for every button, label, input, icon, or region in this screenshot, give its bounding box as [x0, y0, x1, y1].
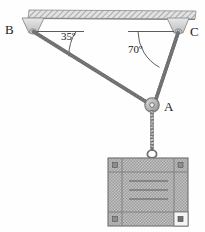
physics-diagram-canvas: B C A 35º 70º [0, 0, 205, 232]
label-angle-right: 70º [128, 43, 143, 55]
eye-hook-icon [147, 148, 156, 158]
diagram-svg: B C A 35º 70º [0, 0, 205, 232]
hanging-block [108, 158, 188, 226]
label-angle-left: 35º [61, 30, 76, 42]
label-point-c: C [190, 24, 199, 39]
label-point-a: A [164, 99, 174, 114]
cable-c-to-a [156, 33, 178, 99]
label-point-b: B [5, 22, 14, 37]
